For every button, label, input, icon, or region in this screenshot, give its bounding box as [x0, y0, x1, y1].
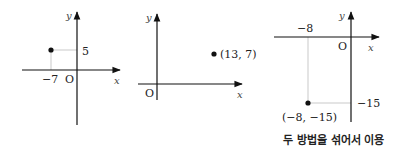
x-tick-label: −7: [42, 73, 58, 86]
x-axis-label: x: [114, 75, 120, 86]
graph-2: (13, 7) O x y: [138, 12, 257, 100]
point-label: (13, 7): [220, 48, 257, 61]
point-marker: [211, 51, 216, 56]
origin-label: O: [338, 40, 347, 53]
coordinate-diagrams: 5 −7 O x y (13, 7) O x y −8 −15 O x y (−…: [0, 0, 396, 149]
origin-label: O: [145, 87, 154, 100]
graph-3: −8 −15 O x y (−8, −15) 두 방법을 섞어서 이용: [274, 10, 385, 147]
x-tick-label: −8: [297, 22, 313, 35]
point-marker: [48, 47, 53, 52]
x-axis-label: x: [368, 42, 374, 53]
y-axis-label: y: [145, 12, 152, 23]
origin-label: O: [65, 73, 74, 86]
y-tick-label: 5: [82, 45, 89, 58]
y-tick-label: −15: [357, 97, 380, 110]
point-label: (−8, −15): [282, 111, 337, 124]
x-axis-label: x: [237, 89, 243, 100]
caption: 두 방법을 섞어서 이용: [283, 133, 385, 147]
y-axis-label: y: [65, 10, 72, 21]
point-marker: [305, 100, 310, 105]
graph-1: 5 −7 O x y: [22, 10, 120, 125]
y-axis-label: y: [338, 10, 345, 21]
